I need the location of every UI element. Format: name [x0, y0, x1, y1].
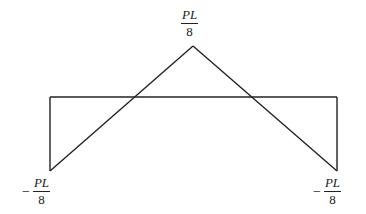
left-label: − PL 8: [22, 176, 50, 207]
right-label-denominator: 8: [329, 192, 336, 207]
top-label: PL 8: [181, 8, 198, 39]
right-label-sign: −: [313, 184, 321, 200]
left-label-denominator: 8: [38, 192, 45, 207]
right-label: − PL 8: [313, 176, 341, 207]
right-label-numerator: PL: [324, 176, 341, 192]
left-label-sign: −: [22, 184, 30, 200]
top-label-numerator: PL: [181, 8, 198, 24]
left-label-numerator: PL: [33, 176, 50, 192]
top-label-denominator: 8: [186, 24, 193, 39]
left-diagonal: [50, 46, 193, 171]
right-diagonal: [193, 46, 337, 171]
